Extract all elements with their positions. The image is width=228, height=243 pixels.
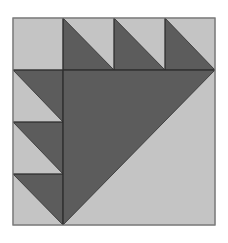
quilt-block	[0, 0, 228, 243]
